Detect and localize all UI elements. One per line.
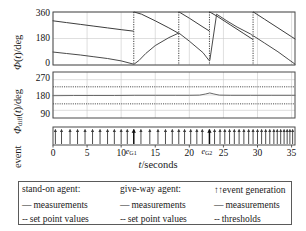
panel-frames bbox=[53, 12, 295, 145]
solid-line-icon: — bbox=[22, 199, 31, 210]
legend-header-row: stand-on agent: give-way agent: ↑↑event … bbox=[22, 183, 291, 198]
xtick-label-30: 30 bbox=[244, 148, 272, 158]
legend-giveway-setpoints: -- set point values bbox=[120, 212, 214, 227]
xtick-label-0: 0 bbox=[39, 148, 67, 158]
xtick-label-15: 15 bbox=[141, 148, 169, 158]
event-generation-icon: ↑↑ bbox=[214, 184, 223, 195]
legend-header-eventgen: ↑↑event generation bbox=[214, 183, 286, 198]
legend-standon-measurements-label: measurements bbox=[33, 200, 87, 210]
dashed-line-icon: -- bbox=[214, 213, 219, 224]
legend-standon-setpoints-label: set point values bbox=[30, 214, 89, 224]
legend-standon-measurements: — measurements bbox=[22, 198, 120, 213]
legend-thresholds-label: thresholds bbox=[222, 214, 261, 224]
legend-giveway-setpoints-label: set point values bbox=[128, 214, 187, 224]
dashed-line-icon: -- bbox=[120, 213, 125, 224]
event-arrows bbox=[54, 129, 294, 144]
phi-series-group bbox=[53, 12, 295, 64]
xtick-label-35: 35 bbox=[278, 148, 306, 158]
x-axis-title: t/seconds bbox=[20, 159, 296, 170]
legend-eventgen-measurements: — measurements bbox=[214, 198, 280, 213]
legend-standon-setpoints: -- set point values bbox=[22, 212, 120, 227]
legend-header-giveway: give-way agent: bbox=[120, 183, 214, 198]
xtick-label-5: 5 bbox=[73, 148, 101, 158]
xtick-label-25: 25 bbox=[209, 148, 237, 158]
dashed-line-icon: -- bbox=[22, 213, 27, 224]
phidiff-series-group bbox=[53, 93, 295, 96]
legend-thresholds: -- thresholds bbox=[214, 212, 261, 227]
legend-header-eventgen-label: event generation bbox=[223, 185, 286, 195]
legend-giveway-measurements-label: measurements bbox=[131, 200, 185, 210]
solid-line-icon: — bbox=[120, 199, 129, 210]
legend-row-setpoints: -- set point values -- set point values … bbox=[22, 212, 291, 227]
legend-eventgen-measurements-label: measurements bbox=[225, 200, 279, 210]
event-label-eG2: eG2 bbox=[201, 147, 212, 156]
xtick-label-20: 20 bbox=[175, 148, 203, 158]
event-label-eG1: eG1 bbox=[126, 147, 137, 156]
legend-giveway-measurements: — measurements bbox=[120, 198, 214, 213]
legend-box: stand-on agent: give-way agent: ↑↑event … bbox=[18, 181, 292, 225]
legend-row-measurements: — measurements — measurements — measurem… bbox=[22, 198, 291, 213]
legend-header-standon: stand-on agent: bbox=[22, 183, 120, 198]
solid-line-icon: — bbox=[214, 199, 223, 210]
figure-chart: Φ(t)/deg Φdiff(t)/deg event 360 180 0 27… bbox=[0, 0, 306, 231]
